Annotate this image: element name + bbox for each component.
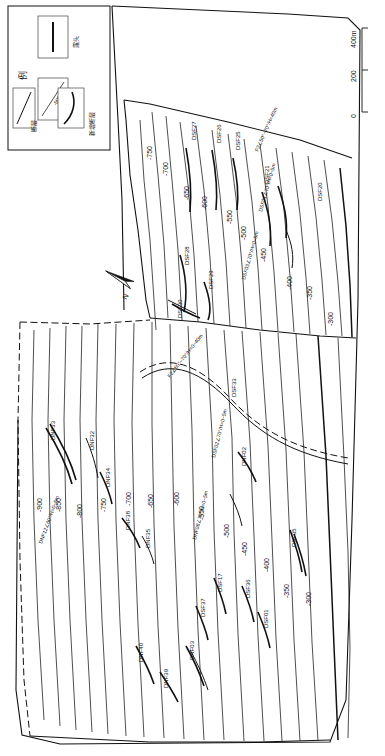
fault-label: DSF33 xyxy=(231,378,237,397)
fault-label: DNF34 xyxy=(105,467,111,487)
legend-item-fault-entry: 断层 xyxy=(13,88,38,132)
legend-label-outcrop: 露头 xyxy=(72,36,80,48)
fault-label: DSF30 xyxy=(177,299,183,318)
scale-tick-0: 0 xyxy=(350,114,357,118)
fault-label: DSF26 xyxy=(216,124,222,143)
fault-label: DSF37 xyxy=(200,598,206,617)
contour-label: -450 xyxy=(241,542,248,556)
contour-label: -700 xyxy=(162,162,169,176)
fault-annotation: DSF02∠70°/H=0~5m xyxy=(210,408,228,458)
fault-label: DSF20 xyxy=(317,182,323,201)
fault-label: DSF17 xyxy=(217,573,223,592)
fault-label: DSF36 xyxy=(245,579,251,598)
fault-label: DNF33 xyxy=(50,420,56,440)
map-canvas: -750 -700 -650 -600 -550 -500 -450 -400 … xyxy=(0,0,385,756)
fault-label: DSF25 xyxy=(235,131,241,150)
contour-label: -600 xyxy=(173,492,180,506)
contour-label: -500 xyxy=(240,226,247,240)
fault-label: DSF28 xyxy=(184,246,190,265)
contour-label: -700 xyxy=(125,492,132,506)
scale-tick-200: 200 xyxy=(350,70,357,82)
contour-label: -500 xyxy=(223,524,230,538)
contour-label: -400 xyxy=(286,276,293,290)
contour-label: -350 xyxy=(283,584,290,598)
contour-label: -800 xyxy=(76,504,83,518)
fault-annotation: F2∠50°~70°/H=0~40m xyxy=(166,333,204,379)
contour-label: -400 xyxy=(263,558,270,572)
contours-north xyxy=(140,112,352,337)
contour-label: -550 xyxy=(226,210,233,224)
contour-label: -650 xyxy=(147,494,154,508)
legend-label-fault: 断层 xyxy=(30,120,38,132)
fault-label: DNF02 xyxy=(241,446,247,466)
contour-label: -450 xyxy=(260,248,267,262)
contour-label: -300 xyxy=(305,592,312,606)
fault-label: DNF40 xyxy=(138,642,144,662)
contour-label: -750 xyxy=(100,498,107,512)
north-arrow: N xyxy=(98,267,137,300)
map-figure: -750 -700 -650 -600 -550 -500 -450 -400 … xyxy=(0,0,385,756)
fault-label: DNF38 xyxy=(125,510,131,530)
contour-label: -900 xyxy=(36,498,43,512)
fault-label: DSF27 xyxy=(191,121,197,140)
contour-label: -600 xyxy=(201,196,208,210)
fault-label: DNF32 xyxy=(89,430,95,450)
fault-label: DNF39 xyxy=(163,668,169,688)
scale-tick-400: 400m xyxy=(350,30,357,48)
fault-label: DNF35 xyxy=(145,528,151,548)
contour-label: -350 xyxy=(306,286,313,300)
fault-label: DSF01 xyxy=(263,609,269,628)
fault-labels: DSF27 DSF26 DSF25 DSF21 DSF20 DSF28 DSF2… xyxy=(50,121,323,688)
contour-label: -750 xyxy=(146,146,153,160)
fault-label: DSF35 xyxy=(291,528,297,547)
contour-label: -650 xyxy=(183,186,190,200)
fault-label: DNF03 xyxy=(189,640,195,660)
legend-swatch-new-fault xyxy=(58,88,84,128)
north-arrow-label: N xyxy=(121,293,130,301)
legend-label-new-fault: 新增断层 xyxy=(88,112,96,136)
contours-south xyxy=(32,322,350,741)
contour-label: -300 xyxy=(327,312,334,326)
fault-label: DSF29 xyxy=(208,270,214,289)
